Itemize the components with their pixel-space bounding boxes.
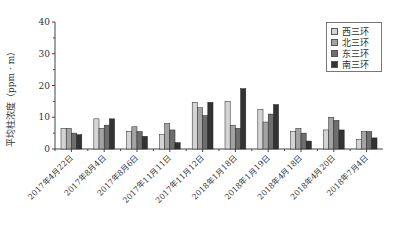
bar	[77, 135, 82, 149]
legend-swatch	[331, 61, 338, 68]
legend-label: 南三环	[342, 58, 369, 71]
bar	[367, 132, 372, 149]
bar	[66, 128, 71, 149]
bar	[361, 132, 366, 149]
bar	[329, 117, 334, 149]
bar	[225, 101, 230, 149]
bar	[71, 133, 76, 149]
bar	[301, 133, 306, 149]
y-tick-label: 20	[39, 81, 51, 91]
bar	[99, 128, 104, 149]
bar	[291, 132, 296, 149]
bar	[61, 128, 66, 149]
y-axis-label: 平均柱浓度（ppm · m）	[4, 47, 17, 147]
bar	[137, 132, 142, 149]
bar	[258, 109, 263, 149]
bar	[356, 139, 361, 149]
legend-item: 南三环	[331, 59, 377, 70]
bar	[159, 135, 164, 149]
bar	[175, 143, 180, 149]
bar	[263, 122, 268, 149]
legend-swatch	[331, 50, 338, 57]
bar	[104, 125, 109, 149]
bar	[339, 130, 344, 149]
bar	[241, 89, 246, 149]
bar	[165, 124, 170, 149]
bar	[208, 102, 213, 149]
bar	[142, 136, 147, 149]
legend-swatch	[331, 28, 338, 35]
bar	[94, 119, 99, 149]
bar	[109, 119, 114, 149]
y-tick-label: 0	[44, 144, 50, 154]
bar	[334, 120, 339, 149]
y-tick-label: 30	[39, 49, 51, 59]
y-tick-label: 10	[39, 112, 51, 122]
bar	[323, 130, 328, 149]
bar	[203, 116, 208, 149]
bar	[268, 114, 273, 149]
bar	[127, 132, 132, 149]
bar	[132, 127, 137, 149]
bar	[372, 138, 377, 149]
bar	[170, 130, 175, 149]
legend-swatch	[331, 39, 338, 46]
bar	[197, 108, 202, 149]
bar	[192, 102, 197, 149]
legend: 西三环北三环东三环南三环	[326, 22, 382, 72]
bar	[306, 141, 311, 149]
bar	[230, 125, 235, 149]
bar	[235, 128, 240, 149]
bar	[296, 128, 301, 149]
y-tick-label: 40	[39, 17, 51, 27]
bar	[273, 105, 278, 149]
